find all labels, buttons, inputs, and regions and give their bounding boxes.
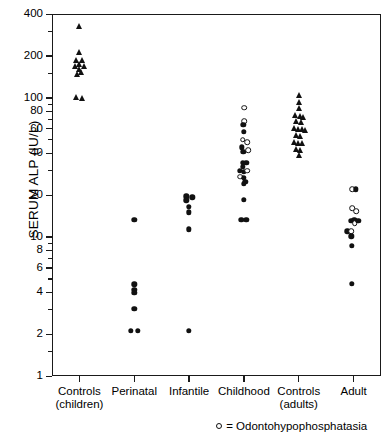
tick-mark — [134, 376, 135, 382]
tick-mark — [46, 128, 52, 129]
data-point — [302, 127, 308, 133]
tick-mark — [188, 376, 189, 382]
tick-mark — [48, 119, 52, 120]
y-tick-label: 400 — [24, 6, 43, 21]
data-point — [245, 168, 251, 174]
x-tick-label: Infantile — [169, 385, 209, 398]
y-tick-label: 8 — [37, 242, 43, 257]
y-tick-label: 2 — [37, 326, 43, 341]
data-point — [296, 105, 302, 111]
tick-mark — [46, 376, 52, 377]
data-point — [353, 208, 359, 214]
x-tick-label: Childhood — [218, 385, 270, 398]
y-tick-label: 1 — [37, 368, 43, 383]
y-tick-label: 60 — [30, 121, 43, 136]
tick-mark — [48, 309, 52, 310]
tick-mark — [48, 278, 52, 279]
y-tick-label: 4 — [37, 284, 43, 299]
tick-mark — [46, 111, 52, 112]
y-tick-label: 200 — [24, 48, 43, 63]
serum-alp-scatter-chart: SERUM ALP (IU/L) 40020010080604020108642… — [0, 0, 386, 445]
data-point — [298, 119, 304, 125]
tick-mark — [46, 334, 52, 335]
tick-mark — [46, 236, 52, 237]
data-point — [296, 99, 302, 105]
tick-mark — [46, 250, 52, 251]
tick-mark — [48, 104, 52, 105]
open-circle-icon — [216, 423, 222, 429]
data-point — [79, 95, 85, 101]
tick-mark — [46, 97, 52, 98]
tick-mark — [48, 243, 52, 244]
data-point — [299, 140, 305, 146]
tick-mark — [48, 170, 52, 171]
x-tick-label: Controls(children) — [55, 385, 103, 410]
tick-mark — [48, 258, 52, 259]
tick-mark — [46, 292, 52, 293]
tick-mark — [46, 153, 52, 154]
tick-mark — [48, 139, 52, 140]
tick-mark — [79, 376, 80, 382]
data-point — [76, 23, 82, 29]
data-point — [76, 49, 82, 55]
data-point — [296, 152, 302, 158]
tick-mark — [353, 376, 354, 382]
y-tick-label: 6 — [37, 260, 43, 275]
legend-label: = Odontohypophosphatasia — [226, 420, 367, 432]
data-point — [296, 92, 302, 98]
data-point — [245, 139, 251, 145]
tick-mark — [298, 376, 299, 382]
legend: = Odontohypophosphatasia — [216, 420, 367, 432]
tick-mark — [46, 195, 52, 196]
data-point — [245, 147, 251, 153]
plot-area — [52, 14, 381, 376]
y-tick-label: 40 — [30, 145, 43, 160]
tick-mark — [46, 55, 52, 56]
tick-mark — [46, 267, 52, 268]
tick-mark — [46, 14, 52, 15]
data-point — [297, 133, 303, 139]
x-tick-label: Controls(adults) — [277, 385, 320, 410]
x-tick-label: Perinatal — [112, 385, 157, 398]
x-tick-label: Adult — [340, 385, 366, 398]
y-tick-label: 80 — [30, 103, 43, 118]
tick-mark — [48, 31, 52, 32]
data-point — [241, 105, 247, 111]
tick-mark — [48, 73, 52, 74]
data-point — [74, 71, 80, 77]
y-tick-label: 20 — [30, 187, 43, 202]
tick-mark — [48, 351, 52, 352]
tick-mark — [243, 376, 244, 382]
